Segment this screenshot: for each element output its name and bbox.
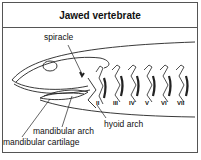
gill-arch-6 [160, 65, 171, 102]
arch-numeral: VI [161, 100, 167, 106]
label-mandibular-arch: mandibular arch [33, 126, 94, 136]
arch-numeral: V [145, 100, 149, 106]
arch-numeral: III [113, 100, 118, 106]
gill-arch-5 [144, 65, 155, 102]
arch-numeral: VII [177, 100, 184, 106]
gill-arch-3 [112, 65, 123, 102]
gill-arch-7 [176, 65, 188, 102]
label-spiracle: spiracle [44, 32, 73, 42]
hyoid-arch-shape [88, 78, 96, 108]
snout-lower [14, 84, 90, 93]
arch-numeral: II [96, 100, 99, 106]
snout-upper [12, 80, 88, 89]
vertebrate-illustration [0, 0, 201, 160]
body-outline-top [12, 42, 195, 80]
gill-arch-2 [96, 66, 106, 104]
body-outline-inner [16, 57, 109, 82]
mandibular-arch-leader [62, 96, 72, 127]
gill-arch-4 [128, 65, 139, 102]
gill-arches [96, 65, 188, 104]
spiracle-leader [68, 45, 82, 74]
arch-numeral: IV [129, 100, 135, 106]
label-hyoid-arch: hyoid arch [104, 119, 143, 129]
label-mandibular-cartilage: mandibular cartilage [3, 137, 80, 147]
